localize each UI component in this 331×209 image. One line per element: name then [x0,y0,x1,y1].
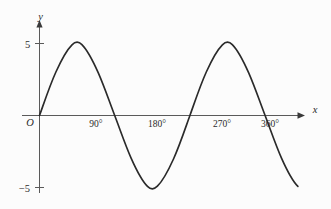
x-axis-label: x [312,104,318,115]
x-tick-label-270: 270° [213,119,231,129]
y-axis-label: y [37,11,43,22]
plot-svg: y x O 5 −5 90° 180° 270° 360° [0,0,331,209]
x-tick-label-90: 90° [89,119,103,129]
sine-curve-figure: y x O 5 −5 90° 180° 270° 360° [0,0,331,209]
y-tick-label-minus5: −5 [19,183,30,194]
y-tick-label-5: 5 [25,39,30,50]
x-axis-arrowhead [298,112,306,118]
origin-label: O [26,117,34,128]
x-tick-label-360: 360° [261,119,279,129]
x-tick-label-180: 180° [148,119,166,129]
